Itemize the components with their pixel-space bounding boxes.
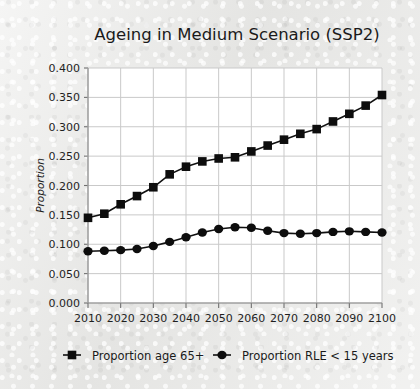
y-axis-tick-label: 0.400	[49, 62, 81, 75]
series-2-marker	[214, 225, 223, 233]
series-2-marker	[83, 247, 92, 255]
series-1-marker	[263, 141, 272, 150]
y-axis-tick-label: 0.050	[49, 268, 81, 281]
series-2-marker	[296, 229, 305, 237]
series-2-marker	[377, 228, 386, 236]
series-2-marker	[312, 229, 321, 237]
x-axis-tick-label: 2100	[368, 312, 396, 325]
y-axis-tick-label: 0.100	[49, 238, 81, 251]
x-axis-tick-label: 2070	[270, 312, 298, 325]
series-2-marker	[198, 228, 207, 236]
y-axis-tick-label: 0.000	[49, 297, 81, 310]
y-axis-tick-label: 0.200	[49, 180, 81, 193]
series-1-marker	[231, 153, 240, 162]
series-1-marker	[116, 200, 125, 209]
series-2-marker	[263, 227, 272, 235]
series-2-marker	[149, 242, 158, 250]
chart-page: 0.0000.0500.1000.1500.2000.2500.3000.350…	[0, 0, 420, 389]
series-1-marker	[280, 135, 289, 144]
series-1-marker	[214, 154, 223, 163]
series-2-marker	[116, 246, 125, 254]
series-2-marker	[328, 228, 337, 236]
x-axis-tick-label: 2010	[74, 312, 102, 325]
x-axis-tick-label: 2080	[303, 312, 331, 325]
legend-marker-circle	[217, 351, 226, 359]
series-1-marker	[149, 183, 158, 192]
x-axis-tick-label: 2040	[172, 312, 200, 325]
x-axis-tick-label: 2050	[205, 312, 233, 325]
y-axis-tick-label: 0.350	[49, 91, 81, 104]
y-axis-title: Proportion	[34, 158, 46, 213]
ageing-line-chart: 0.0000.0500.1000.1500.2000.2500.3000.350…	[0, 0, 420, 389]
series-1-marker	[84, 214, 93, 223]
series-1-marker	[182, 162, 191, 171]
x-axis-tick-label: 2060	[237, 312, 265, 325]
legend-marker-square	[68, 351, 77, 360]
legend-label: Proportion age 65+	[92, 349, 204, 363]
legend-label: Proportion RLE < 15 years	[242, 349, 394, 363]
series-2-marker	[279, 229, 288, 237]
x-axis-tick-label: 2090	[335, 312, 363, 325]
series-1-marker	[329, 117, 338, 126]
series-1-marker	[345, 110, 354, 119]
y-axis-tick-label: 0.150	[49, 209, 81, 222]
series-2-marker	[100, 247, 109, 255]
x-axis-tick-label: 2030	[139, 312, 167, 325]
series-1-marker	[100, 209, 109, 218]
series-2-marker	[165, 238, 174, 246]
series-2-marker	[361, 228, 370, 236]
series-2-marker	[345, 227, 354, 235]
series-2-marker	[181, 233, 190, 241]
series-2-marker	[247, 224, 256, 232]
series-1-marker	[361, 101, 370, 110]
series-1-marker	[198, 157, 207, 166]
series-1-marker	[378, 91, 387, 100]
series-1-marker	[296, 130, 305, 139]
series-1-marker	[133, 192, 142, 201]
series-2-marker	[230, 223, 239, 231]
series-2-marker	[132, 245, 141, 253]
series-1-marker	[165, 170, 174, 179]
series-1-marker	[247, 147, 256, 156]
x-axis-tick-label: 2020	[107, 312, 135, 325]
y-axis-tick-label: 0.250	[49, 150, 81, 163]
series-1-marker	[312, 125, 321, 134]
chart-title: Ageing in Medium Scenario (SSP2)	[94, 25, 379, 44]
y-axis-tick-label: 0.300	[49, 121, 81, 134]
